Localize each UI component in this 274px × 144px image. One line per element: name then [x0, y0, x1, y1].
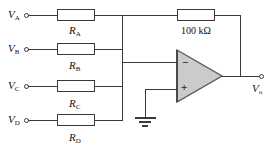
label-sub: B: [15, 48, 20, 56]
label-sub: A: [15, 14, 20, 22]
wire-feedback-top: [215, 15, 240, 16]
resistor-label-rc: RC: [69, 97, 81, 113]
wire-feedback-down: [240, 15, 241, 77]
resistor-label-rb: RB: [69, 59, 81, 75]
label-sub: o: [259, 88, 263, 96]
resistor-label-rd: RD: [69, 131, 81, 144]
ground-bar-bottom: [142, 125, 148, 127]
wire-input-a-to-summing-node: [95, 15, 177, 16]
output-label-vo: Vo: [252, 82, 262, 98]
ground-icon: [135, 117, 156, 119]
label-sub: D: [15, 119, 20, 127]
wire-input-c-to-bus: [95, 86, 123, 87]
label-sym: V: [8, 8, 15, 20]
wire-output: [222, 76, 260, 77]
label-sym: V: [8, 42, 15, 54]
wire-input-d-to-bus: [95, 120, 123, 121]
label-sym: R: [69, 24, 76, 36]
opamp-inverting-sign: −: [182, 56, 188, 68]
label-sym: V: [252, 82, 259, 94]
output-terminal-vo: [259, 74, 264, 79]
wire-summing-bus: [122, 15, 123, 121]
resistor-feedback: [177, 9, 215, 21]
circuit-diagram: VA RA VB RB VC RC VD RD 100 kΩ − + Vo: [0, 0, 274, 144]
resistor-label-feedback: 100 kΩ: [181, 25, 211, 36]
resistor-rc: [57, 80, 95, 92]
resistor-ra: [57, 9, 95, 21]
label-sym: V: [8, 79, 15, 91]
input-label-vb: VB: [8, 42, 20, 58]
input-label-vd: VD: [8, 113, 20, 129]
resistor-rd: [57, 114, 95, 126]
label-sub: C: [15, 85, 20, 93]
label-sym: V: [8, 113, 15, 125]
label-sym: R: [69, 131, 76, 143]
input-label-va: VA: [8, 8, 20, 24]
wire-noninverting-input: [145, 89, 177, 90]
label-sub: A: [76, 30, 81, 38]
resistor-label-ra: RA: [69, 24, 81, 40]
resistor-rb: [57, 43, 95, 55]
wire-input-c-left: [28, 86, 57, 87]
wire-input-b-to-bus: [95, 49, 123, 50]
label-sym: R: [69, 59, 76, 71]
label-sub: C: [76, 103, 81, 111]
wire-input-d-left: [28, 120, 57, 121]
input-label-vc: VC: [8, 79, 20, 95]
wire-input-a-left: [28, 15, 57, 16]
wire-bus-to-inverting-input: [122, 62, 177, 63]
wire-input-b-left: [28, 49, 57, 50]
label-sym: R: [69, 97, 76, 109]
ground-bar-middle: [139, 121, 151, 123]
label-sub: B: [76, 65, 81, 73]
opamp-noninverting-sign: +: [181, 81, 187, 93]
wire-to-ground: [145, 89, 146, 118]
label-sub: D: [76, 137, 81, 144]
